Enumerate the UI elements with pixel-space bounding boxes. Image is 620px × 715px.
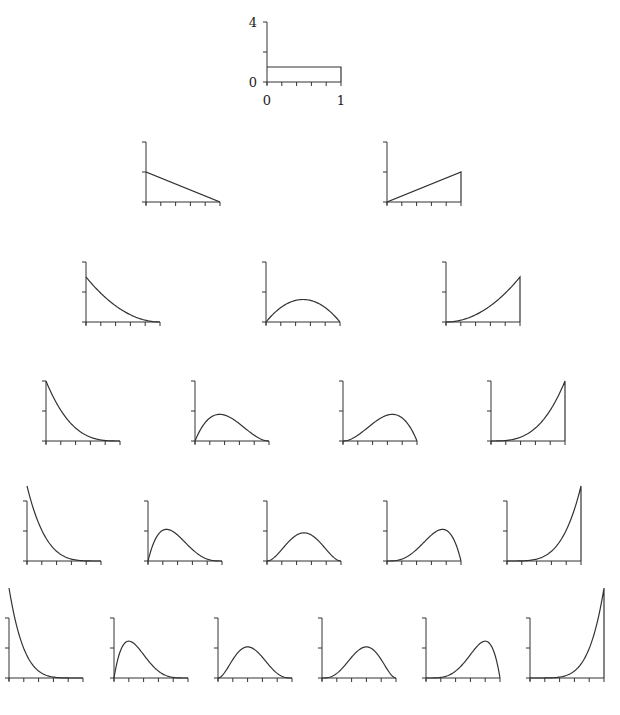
axes — [142, 142, 220, 206]
panel-n3-k1 — [191, 381, 269, 445]
y-tick-label-bottom: 0 — [249, 75, 257, 90]
axes — [318, 618, 396, 682]
panel-n1-k0 — [142, 142, 220, 206]
bernstein-curve — [218, 647, 292, 678]
panel-n5-k5 — [526, 588, 604, 682]
bernstein-curve — [267, 67, 341, 82]
axes — [191, 381, 269, 445]
axes — [442, 262, 520, 326]
bernstein-curve — [195, 414, 269, 441]
panel-n4-k2 — [263, 501, 341, 565]
axis-labels: 4 0 0 1 — [249, 15, 345, 108]
bernstein-curve — [266, 300, 340, 323]
axes — [110, 618, 188, 682]
panel-n4-k0 — [23, 486, 101, 565]
panel-n5-k4 — [422, 618, 500, 682]
panel-n5-k2 — [214, 618, 292, 682]
panel-n5-k0 — [5, 588, 83, 682]
bernstein-curve — [426, 641, 500, 678]
axes — [383, 142, 461, 206]
panel-n4-k3 — [383, 501, 461, 565]
axes — [503, 501, 581, 565]
axes — [422, 618, 500, 682]
x-tick-label-right: 1 — [337, 93, 345, 108]
bernstein-curve — [322, 647, 396, 678]
panel-n3-k2 — [339, 381, 417, 445]
bernstein-curve — [507, 486, 581, 561]
bernstein-curve — [114, 641, 188, 678]
axes — [82, 262, 160, 326]
bernstein-curve — [267, 533, 341, 561]
panel-n5-k1 — [110, 618, 188, 682]
bernstein-curve — [491, 381, 565, 441]
bernstein-curve — [387, 529, 461, 561]
panel-grid — [5, 22, 604, 682]
panel-n4-k4 — [503, 486, 581, 565]
panel-n4-k1 — [144, 501, 222, 565]
bernstein-curve — [530, 588, 604, 678]
bernstein-pyramid-figure: 4 0 0 1 — [0, 0, 620, 715]
bernstein-curve — [343, 414, 417, 441]
y-tick-label-top: 4 — [249, 15, 257, 30]
bernstein-curve — [27, 486, 101, 561]
axes — [262, 262, 340, 326]
bernstein-curve — [86, 277, 160, 322]
axes — [144, 501, 222, 565]
axes — [487, 381, 565, 445]
bernstein-curve — [146, 172, 220, 202]
panel-n3-k0 — [42, 381, 120, 445]
panel-n2-k2 — [442, 262, 520, 326]
panel-n2-k0 — [82, 262, 160, 326]
axes — [214, 618, 292, 682]
panel-n2-k1 — [262, 262, 340, 326]
bernstein-curve — [387, 172, 461, 202]
panel-n5-k3 — [318, 618, 396, 682]
axes — [42, 381, 120, 445]
x-tick-label-left: 0 — [263, 93, 271, 108]
axes — [263, 22, 341, 86]
panel-n3-k3 — [487, 381, 565, 445]
bernstein-curve — [9, 588, 83, 678]
axes — [526, 618, 604, 682]
bernstein-curve — [46, 381, 120, 441]
panel-n1-k1 — [383, 142, 461, 206]
bernstein-curve — [446, 277, 520, 322]
bernstein-curve — [148, 529, 222, 561]
panel-n0-k0 — [263, 22, 341, 86]
axes — [339, 381, 417, 445]
